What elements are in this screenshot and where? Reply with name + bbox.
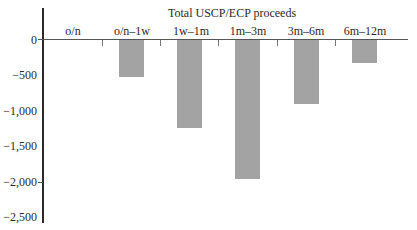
x-tick-mark xyxy=(160,40,161,46)
bar-on-1w xyxy=(119,40,144,77)
y-tick-label-0: 0 xyxy=(31,33,37,48)
chart-title: Total USCP/ECP proceeds xyxy=(168,6,284,21)
bar-1m-3m xyxy=(235,40,260,179)
category-label-on-1w: o/n–1w xyxy=(114,24,150,39)
y-tick-label-minus-1500: −1,500 xyxy=(3,139,37,154)
y-axis xyxy=(42,8,44,223)
y-tick-mark xyxy=(38,182,43,183)
category-label-3m-6m: 3m–6m xyxy=(288,24,325,39)
x-tick-mark xyxy=(277,40,278,46)
bar-chart: Total USCP/ECP proceeds 0 −500 −1,000 −1… xyxy=(0,0,417,230)
x-tick-mark xyxy=(218,40,219,46)
bar-6m-12m xyxy=(352,40,377,63)
x-tick-mark xyxy=(102,40,103,46)
y-tick-label-minus-2500: −2,500 xyxy=(3,210,37,225)
category-label-on: o/n xyxy=(65,24,80,39)
category-label-1w-1m: 1w–1m xyxy=(173,24,209,39)
x-tick-mark xyxy=(335,40,336,46)
category-label-1m-3m: 1m–3m xyxy=(230,24,267,39)
y-tick-label-minus-500: −500 xyxy=(12,68,37,83)
bar-3m-6m xyxy=(294,40,319,104)
y-tick-label-minus-1000: −1,000 xyxy=(3,104,37,119)
category-label-6m-12m: 6m–12m xyxy=(344,24,387,39)
bar-1w-1m xyxy=(177,40,202,128)
y-tick-label-minus-2000: −2,000 xyxy=(3,175,37,190)
